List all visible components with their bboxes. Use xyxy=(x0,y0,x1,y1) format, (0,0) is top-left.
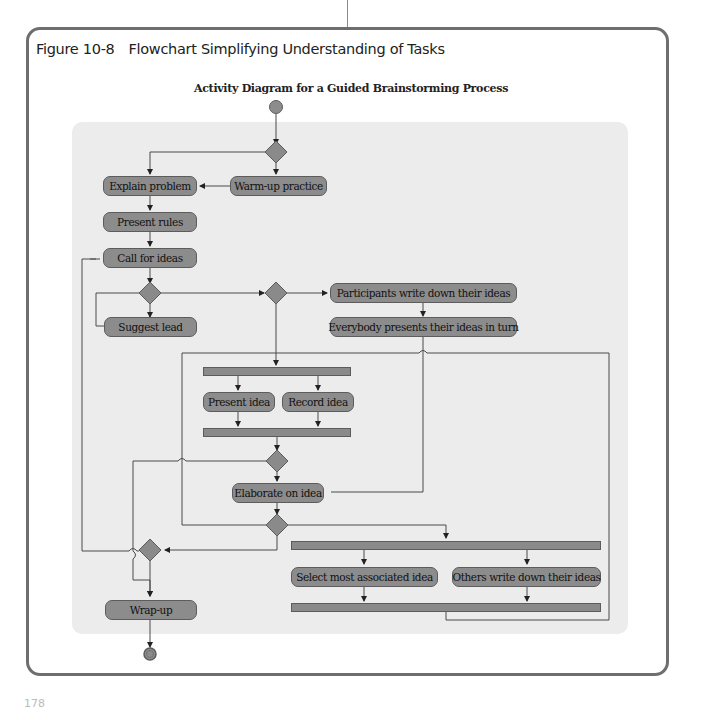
activity-participants-write: Participants write down their ideas xyxy=(330,283,517,303)
fork-bar xyxy=(203,367,351,376)
diagram-connectors xyxy=(0,0,702,708)
decision-diamond xyxy=(265,282,287,304)
activity-elaborate-on-idea: Elaborate on idea xyxy=(232,483,324,503)
activity-warm-up-practice: Warm-up practice xyxy=(230,176,327,196)
activity-explain-problem: Explain problem xyxy=(103,176,197,196)
activity-select-most-associated: Select most associated idea xyxy=(291,567,438,587)
join-bar xyxy=(203,428,351,437)
decision-diamond xyxy=(266,450,288,472)
activity-suggest-lead: Suggest lead xyxy=(104,317,197,337)
join-bar xyxy=(291,603,601,612)
fork-bar xyxy=(291,541,601,550)
decision-diamond xyxy=(139,282,161,304)
activity-everybody-presents: Everybody presents their ideas in turn xyxy=(330,317,517,337)
activity-others-write: Others write down their ideas xyxy=(452,567,601,587)
activity-wrap-up: Wrap-up xyxy=(105,600,197,620)
decision-diamond xyxy=(266,514,288,536)
activity-present-idea: Present idea xyxy=(203,392,275,412)
decision-diamond xyxy=(265,141,287,163)
activity-record-idea: Record idea xyxy=(282,392,354,412)
activity-present-rules: Present rules xyxy=(103,212,197,232)
page-number: 178 xyxy=(24,697,45,708)
initial-state xyxy=(270,101,283,114)
merge-diamond xyxy=(139,539,161,561)
activity-call-for-ideas: Call for ideas xyxy=(103,248,197,268)
